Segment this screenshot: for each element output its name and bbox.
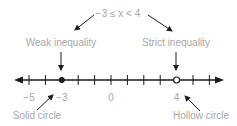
tick-label: −3 <box>56 92 68 103</box>
expression-label: −3 ≤ x < 4 <box>96 8 141 19</box>
solid-circle-label: Solid circle <box>13 110 62 121</box>
solid-circle-point <box>59 77 65 83</box>
tick-label: 0 <box>108 92 114 103</box>
tick-label: −5 <box>23 92 35 103</box>
hollow-circle-point <box>174 77 180 83</box>
right-arrowhead-icon <box>215 77 224 84</box>
expression-to-strict-arrow <box>148 15 172 31</box>
hollow-circle-arrow <box>185 96 200 111</box>
weak-inequality-label: Weak inequality <box>26 37 96 48</box>
left-arrowhead-icon <box>14 77 23 84</box>
solid-circle-arrow <box>37 95 53 110</box>
hollow-circle-label: Hollow circle <box>173 110 230 121</box>
expression-to-weak-arrow <box>75 15 94 30</box>
strict-inequality-label: Strict inequality <box>142 37 210 48</box>
tick-label: 4 <box>174 92 180 103</box>
inequality-diagram: −3 ≤ x < 4 Weak inequality Strict inequa… <box>0 0 237 126</box>
